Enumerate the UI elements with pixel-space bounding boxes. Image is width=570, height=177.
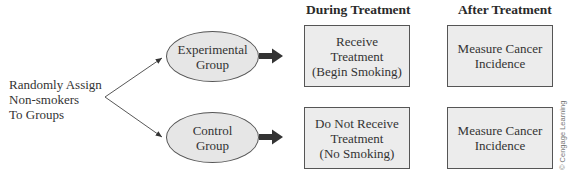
copyright-notice: © Cengage Learning (558, 101, 567, 170)
assignment-line-3: To Groups (9, 107, 102, 122)
random-assignment-label: Randomly Assign Non-smokers To Groups (9, 77, 102, 122)
thick-arrow-experimental (259, 49, 283, 64)
assignment-line-2: Non-smokers (9, 92, 102, 107)
branch-arrow-experimental (105, 58, 162, 97)
after-exp-line-2: Incidence (458, 56, 543, 71)
during-treatment-box-control: Do Not Receive Treatment (No Smoking) (304, 107, 410, 169)
control-group-node: Control Group (166, 112, 259, 163)
experimental-group-line-2: Group (177, 57, 247, 72)
during-exp-line-1: Receive (312, 34, 402, 49)
after-exp-line-1: Measure Cancer (458, 41, 543, 56)
control-group-line-1: Control (193, 123, 233, 138)
header-during-treatment: During Treatment (306, 2, 411, 18)
during-treatment-box-experimental: Receive Treatment (Begin Smoking) (304, 25, 410, 87)
after-treatment-box-control: Measure Cancer Incidence (447, 107, 553, 169)
header-after-treatment: After Treatment (458, 2, 552, 18)
during-exp-line-2: Treatment (312, 49, 402, 64)
control-group-line-2: Group (193, 138, 233, 153)
after-ctrl-line-1: Measure Cancer (458, 123, 543, 138)
during-exp-line-3: (Begin Smoking) (312, 64, 402, 79)
during-ctrl-line-3: (No Smoking) (315, 146, 399, 161)
branch-arrow-control (105, 97, 162, 137)
thick-arrow-control (259, 130, 283, 145)
experimental-group-line-1: Experimental (177, 42, 247, 57)
after-treatment-box-experimental: Measure Cancer Incidence (447, 25, 553, 87)
during-ctrl-line-1: Do Not Receive (315, 116, 399, 131)
experimental-group-node: Experimental Group (166, 31, 259, 82)
assignment-line-1: Randomly Assign (9, 77, 102, 92)
after-ctrl-line-2: Incidence (458, 138, 543, 153)
during-ctrl-line-2: Treatment (315, 131, 399, 146)
